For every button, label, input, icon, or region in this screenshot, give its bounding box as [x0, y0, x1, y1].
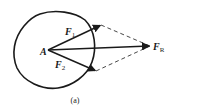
force-f1-label: F1: [64, 26, 76, 39]
resultant-fr-label: FR: [152, 41, 165, 54]
parallelogram-side-upper: [101, 25, 150, 46]
point-a-label: A: [39, 46, 47, 57]
force-f2-label: F2: [54, 59, 66, 72]
resultant-fr-vector: [48, 46, 149, 50]
figure-caption: (a): [71, 96, 80, 105]
force-diagram: A F1 F2 FR (a): [0, 0, 201, 112]
parallelogram-side-lower: [96, 46, 150, 71]
